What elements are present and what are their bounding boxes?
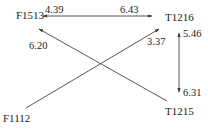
edge-value-6-20: 6.20 <box>29 41 47 51</box>
node-t1216: T1216 <box>165 12 194 23</box>
edge-value-5-46: 5.46 <box>183 29 201 39</box>
edge-value-4-39: 4.39 <box>45 5 63 15</box>
node-f1112: F1112 <box>3 113 30 124</box>
node-f1513: F1513 <box>16 10 44 21</box>
node-t1215: T1215 <box>165 106 194 117</box>
edge-value-6-31: 6.31 <box>183 88 201 98</box>
edge-value-6-43: 6.43 <box>120 5 138 15</box>
edge-value-3-37: 3.37 <box>147 37 165 47</box>
